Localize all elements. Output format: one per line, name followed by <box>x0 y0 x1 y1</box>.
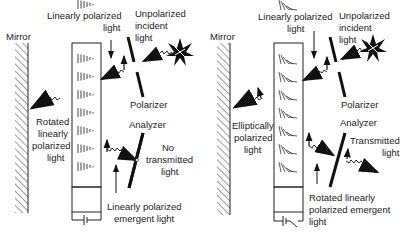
unpolarized-label-line-3: light <box>135 32 153 43</box>
reflected-label-line-2: polarized <box>234 132 273 143</box>
analyzer-icon <box>330 133 345 187</box>
polarizer-icon <box>128 37 143 97</box>
unpolarized-label-line-2: incident <box>339 22 372 33</box>
transmitted-ray-arrow-icon <box>366 167 377 172</box>
output-label-line-2: light <box>382 147 400 158</box>
mirror-label: Mirror <box>6 31 31 42</box>
polarized-ray-arrow-icon <box>304 77 310 80</box>
polarizer-label: Polarizer <box>341 99 379 110</box>
emergent-label-line-2: emergent light <box>114 213 175 224</box>
liquid-crystal-cell <box>274 0 303 227</box>
reflected-label-line-1: Rotated <box>36 116 69 127</box>
light-source-star-icon <box>359 34 387 62</box>
emergent-label-line-3: light <box>309 216 327 227</box>
unpolarized-label-line-1: Unpolarized <box>339 10 390 21</box>
reflected-label-line-4: light <box>47 152 65 163</box>
analyzer-label: Analyzer <box>129 119 166 130</box>
light-source-star-icon <box>166 38 194 66</box>
linearly-polarized-label-line-1: Linearly polarized <box>47 10 121 21</box>
analyzer-label: Analyzer <box>340 117 377 128</box>
incident-ray-arrow-icon <box>342 55 350 59</box>
reflected-label-line-3: polarized <box>32 140 71 151</box>
liquid-crystal-polarization-diagram: Mirror <box>0 0 407 239</box>
polarizer-icon <box>330 37 345 97</box>
output-label-line-1: No <box>162 142 174 153</box>
reflected-label-line-3: light <box>244 144 262 155</box>
open-switch-icon <box>290 221 297 227</box>
linearly-polarized-label-line-2: light <box>103 22 121 33</box>
left-panel: Mirror <box>6 0 194 225</box>
unpolarized-label-line-3: light <box>339 34 357 45</box>
polarized-ray-arrow-icon <box>102 76 108 79</box>
closed-switch-icon <box>87 212 101 220</box>
incident-ray-arrow-icon <box>144 57 152 61</box>
emergent-ray-arrow-icon <box>325 150 333 155</box>
emergent-label-line-1: Linearly polarized <box>107 201 181 212</box>
output-label-line-1: Transmitted <box>350 135 400 146</box>
mirror-label: Mirror <box>210 31 235 42</box>
polarizer-label: Polarizer <box>130 99 168 110</box>
linearly-polarized-label-line-1: Linearly polarized <box>258 11 332 22</box>
unpolarized-label-line-1: Unpolarized <box>135 8 186 19</box>
emergent-ray-arrow-icon <box>125 155 136 160</box>
reflected-label-line-2: linearly <box>38 128 68 139</box>
reflected-ray-arrow-icon <box>32 101 44 108</box>
emergent-label-line-2: polarized emergent <box>309 204 391 215</box>
reflected-label-line-1: Elliptically <box>232 120 274 131</box>
reflected-ray-arrow-icon <box>235 101 246 107</box>
aligned-molecules-icon <box>78 0 93 171</box>
output-label-line-3: light <box>161 166 179 177</box>
unpolarized-label-line-2: incident <box>135 20 168 31</box>
right-panel: Mirror <box>210 0 400 227</box>
mirror-icon <box>217 43 230 215</box>
emergent-label-line-1: Rotated linearly <box>309 192 375 203</box>
output-label-line-2: transmitted <box>146 154 193 165</box>
linearly-polarized-label-line-2: light <box>287 23 305 34</box>
liquid-crystal-cell <box>72 0 101 225</box>
mirror-icon <box>15 43 28 213</box>
